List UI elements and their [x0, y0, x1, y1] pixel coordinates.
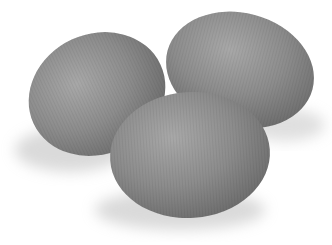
eggs-illustration: [0, 0, 332, 245]
egg-photo: [0, 0, 332, 245]
